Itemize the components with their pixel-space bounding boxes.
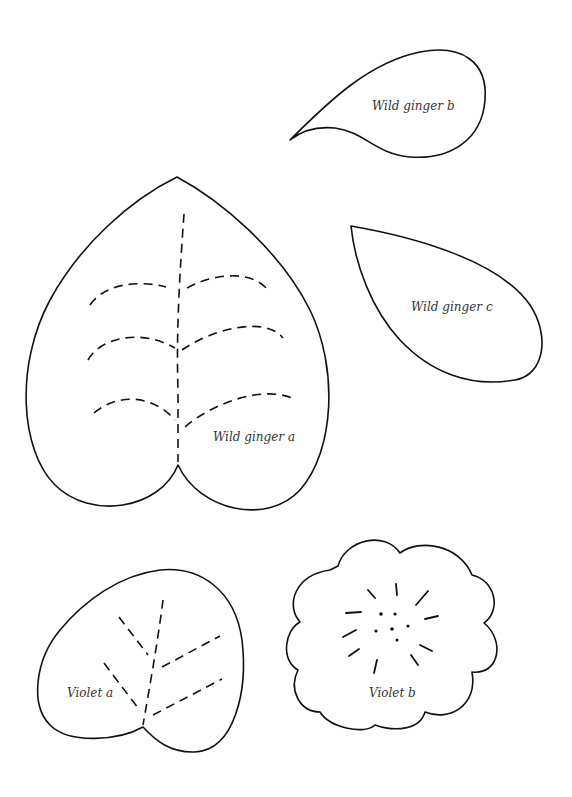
wild-ginger-a-vein (94, 399, 175, 420)
wild-ginger-a-piece: Wild ginger a (26, 177, 329, 510)
violet-a-piece: Violet a (38, 570, 244, 752)
violet-b-center-dot (374, 629, 377, 632)
wild-ginger-a-vein (88, 337, 175, 360)
violet-a-midrib (143, 600, 163, 725)
wild-ginger-a-vein (90, 284, 166, 305)
wild-ginger-a-vein (187, 276, 268, 290)
violet-b-stitch (349, 649, 359, 656)
wild-ginger-a-midrib (177, 214, 184, 462)
wild-ginger-a-label: Wild ginger a (213, 430, 295, 444)
wild-ginger-b-label: Wild ginger b (372, 99, 455, 113)
wild-ginger-b-piece: Wild ginger b (290, 50, 485, 157)
violet-b-center-dot (393, 612, 396, 615)
violet-b-stitch (368, 590, 375, 598)
wild-ginger-c-piece: Wild ginger c (351, 226, 542, 382)
violet-b-stitch (416, 591, 428, 605)
violet-a-vein (119, 617, 148, 655)
violet-b-label: Violet b (369, 686, 416, 700)
wild-ginger-c-label: Wild ginger c (411, 300, 493, 314)
violet-b-piece: Violet b (286, 540, 496, 730)
violet-b-stitch (396, 584, 397, 595)
violet-b-stitch (425, 616, 438, 619)
violet-b-center-dot (390, 627, 394, 631)
violet-b-stitch (374, 660, 377, 673)
violet-b-outline (286, 540, 496, 730)
violet-a-vein (162, 636, 220, 667)
wild-ginger-a-vein (182, 326, 283, 350)
violet-b-center-dot (406, 624, 409, 627)
pattern-sheet: Wild ginger b Wild ginger c Wild ginger … (0, 0, 572, 797)
violet-a-label: Violet a (67, 686, 113, 700)
violet-b-stitch (343, 630, 356, 637)
violet-b-stitch (420, 645, 432, 651)
wild-ginger-a-vein (185, 394, 292, 427)
violet-b-stitch (411, 655, 418, 665)
violet-b-center-dot (379, 612, 383, 616)
violet-b-stitch (346, 612, 361, 613)
violet-b-center-dot (396, 639, 399, 642)
violet-a-vein (153, 679, 222, 715)
violet-a-outline (38, 570, 244, 752)
